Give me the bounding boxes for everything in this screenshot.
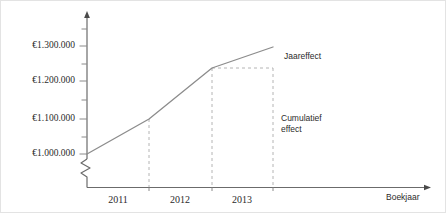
y-axis-arrowhead (84, 11, 90, 18)
annotation-jaareffect: Jaareffect (284, 52, 321, 62)
annotation-cumulatief-effect-line1: Cumulatief (281, 114, 322, 124)
x-tick-label-2012: 2012 (162, 194, 198, 206)
y-axis-ticks (80, 29, 88, 154)
data-line-cumulatief-effect (87, 47, 273, 154)
y-tick-label-1200000: €1.200.000 (15, 75, 75, 86)
x-axis-arrowhead (424, 185, 431, 191)
chart-plot-area (1, 1, 446, 213)
chart-figure: €1.300.000 €1.200.000 €1.100.000 €1.000.… (0, 0, 446, 213)
x-axis-title: Boekjaar (386, 193, 420, 203)
x-tick-label-2011: 2011 (100, 194, 136, 206)
y-tick-label-1100000: €1.100.000 (15, 113, 75, 124)
y-tick-label-1000000: €1.000.000 (15, 148, 75, 159)
y-tick-label-1300000: €1.300.000 (15, 40, 75, 51)
x-tick-label-2013: 2013 (224, 194, 260, 206)
annotation-cumulatief-effect-line2: effect (281, 125, 302, 135)
y-axis-break-icon (81, 159, 90, 182)
